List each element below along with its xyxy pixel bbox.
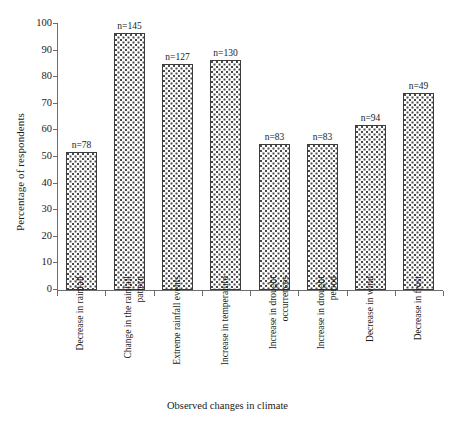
y-tick: 20: [57, 236, 58, 237]
y-tick: 40: [57, 183, 58, 184]
y-tick-label: 0: [47, 282, 52, 295]
x-category-label: Increase in drought occurrences: [274, 180, 314, 276]
y-axis-line: [57, 24, 58, 291]
x-category-label-text: Decrease in rainfall: [75, 276, 87, 372]
y-tick-label: 50: [42, 149, 53, 162]
y-tick-label: 10: [42, 255, 53, 268]
y-tick-mark: [53, 262, 58, 263]
x-tick-mark: [395, 291, 396, 296]
y-tick-mark: [53, 76, 58, 77]
x-category-label: Decrease in rainfall: [81, 180, 121, 276]
y-tick-mark: [53, 50, 58, 51]
y-tick: 30: [57, 209, 58, 210]
y-axis-title: Percentage of respondents: [14, 0, 30, 76]
y-tick-label: 60: [42, 122, 53, 135]
y-tick-mark: [53, 156, 58, 157]
bar-count-label: n=78: [72, 140, 92, 151]
x-category-label-text: Decrease in wind: [365, 276, 377, 372]
x-category-label-text: Increase in drought occurrences: [268, 276, 291, 372]
bar-count-label: n=127: [165, 52, 189, 63]
x-tick-mark: [154, 291, 155, 296]
x-category-label-text: Decrease in frost: [413, 276, 425, 372]
x-tick-mark: [250, 291, 251, 296]
x-axis-title: Observed changes in climate: [0, 400, 455, 411]
y-tick-mark: [53, 209, 58, 210]
y-tick: 60: [57, 129, 58, 130]
y-tick-mark: [53, 289, 58, 290]
bar-count-label: n=49: [409, 81, 429, 92]
y-tick-label: 90: [42, 43, 53, 56]
x-category-label: Extreme rainfall events: [178, 180, 218, 276]
bar-count-label: n=145: [117, 21, 141, 32]
y-tick-label: 20: [42, 229, 53, 242]
x-tick-mark: [298, 291, 299, 296]
y-tick: 0: [57, 289, 58, 290]
x-category-label: Decrease in wind: [371, 180, 411, 276]
y-tick: 80: [57, 76, 58, 77]
bar-count-label: n=130: [213, 48, 237, 59]
y-tick-mark: [53, 23, 58, 24]
y-tick-label: 80: [42, 69, 53, 82]
x-category-label: Change in the rainfall pattern: [129, 180, 169, 276]
x-category-label-text: Increase in temperature: [220, 276, 232, 372]
x-tick-mark: [443, 291, 444, 296]
y-tick-label: 70: [42, 96, 53, 109]
y-tick-mark: [53, 183, 58, 184]
bar-count-label: n=94: [361, 113, 381, 124]
x-category-label-text: Extreme rainfall events: [172, 276, 184, 372]
x-category-label-text: Increase in drought period: [316, 276, 339, 372]
x-tick-mark: [347, 291, 348, 296]
bar-count-label: n=83: [313, 132, 333, 143]
x-category-label: Increase in drought period: [322, 180, 362, 276]
x-tick-mark: [105, 291, 106, 296]
y-tick: 90: [57, 50, 58, 51]
y-tick: 100: [57, 23, 58, 24]
y-tick: 50: [57, 156, 58, 157]
y-tick: 70: [57, 103, 58, 104]
y-tick-label: 40: [42, 176, 53, 189]
x-category-label: Increase in temperature: [226, 180, 266, 276]
x-tick-mark: [57, 291, 58, 296]
y-tick-mark: [53, 103, 58, 104]
chart-figure: Percentage of respondents 01020304050607…: [0, 0, 455, 423]
x-tick-mark: [202, 291, 203, 296]
y-tick-label: 30: [42, 202, 53, 215]
bar-count-label: n=83: [265, 132, 285, 143]
y-tick-mark: [53, 129, 58, 130]
y-axis-title-text: Percentage of respondents: [14, 72, 26, 272]
y-tick-mark: [53, 236, 58, 237]
y-tick: 10: [57, 262, 58, 263]
y-tick-label: 100: [36, 16, 52, 29]
x-category-label: Decrease in frost: [419, 180, 455, 276]
x-category-label-text: Change in the rainfall pattern: [123, 276, 146, 372]
